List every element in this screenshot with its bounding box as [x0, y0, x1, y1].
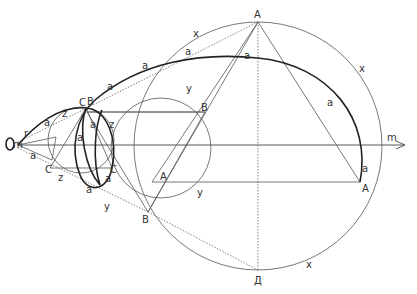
- label-axis-m-left: m: [13, 139, 23, 150]
- label-vertex-A-top: A: [254, 9, 261, 20]
- label-spiral-a-4: a: [142, 60, 148, 71]
- label-spiral-a-6: a: [44, 117, 50, 128]
- label-spiral-a-10: a: [105, 173, 111, 184]
- label-vertex-A-right: A: [362, 183, 369, 194]
- label-circle-y-lower: y: [104, 201, 110, 212]
- label-circle-y-right: y: [197, 187, 203, 198]
- guide-B-D: [148, 212, 258, 270]
- guide-A-C: [87, 22, 258, 108]
- label-axis-m-right: m: [387, 132, 397, 143]
- label-spiral-a-8: a: [77, 132, 83, 143]
- label-vertex-D: Д: [254, 275, 262, 286]
- label-spiral-a-2: a: [185, 46, 191, 57]
- label-circle-z-right: z: [109, 119, 114, 130]
- label-vertex-C-top: С: [79, 97, 86, 108]
- label-spiral-a-12: a: [362, 163, 368, 174]
- label-spiral-a-9: a: [30, 150, 36, 161]
- label-vertex-C-left: С: [45, 164, 52, 175]
- triangle-r: [18, 137, 56, 160]
- label-spiral-a: a: [327, 97, 333, 108]
- label-vertex-B-right: В: [201, 102, 208, 113]
- triangle-B: [87, 112, 205, 212]
- spiral-construction-diagram: A A A В В В С С С Д x x x y y y z z z r …: [0, 0, 417, 294]
- label-vertex-B-top: В: [87, 96, 94, 107]
- label-vertex-B-bottom: В: [142, 214, 149, 225]
- label-vertex-A-left: A: [160, 171, 167, 182]
- label-spiral-a-3: a: [244, 50, 250, 61]
- label-circle-z-bottom: z: [58, 172, 63, 183]
- circle-y: [111, 98, 211, 198]
- label-circle-x-upper-left: x: [193, 28, 199, 39]
- label-circle-x-lower: x: [306, 259, 312, 270]
- label-spiral-a-5: a: [107, 81, 113, 92]
- label-circle-y-top: y: [186, 83, 192, 94]
- label-circle-z-top: z: [62, 108, 67, 119]
- label-circle-x-upper-right: x: [359, 63, 365, 74]
- label-spiral-a-11: a: [86, 184, 92, 195]
- label-spiral-a-7: a: [90, 119, 96, 130]
